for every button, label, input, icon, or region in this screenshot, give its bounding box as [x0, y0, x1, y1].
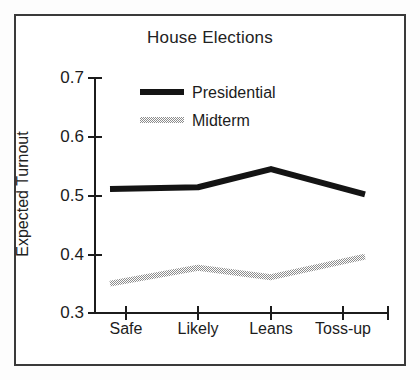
- series-line-midterm: [110, 257, 365, 284]
- chart-figure: House Elections Expected Turnout 0.7 0.6…: [0, 0, 420, 380]
- plot-area: [0, 0, 420, 380]
- series-line-presidential: [110, 169, 365, 194]
